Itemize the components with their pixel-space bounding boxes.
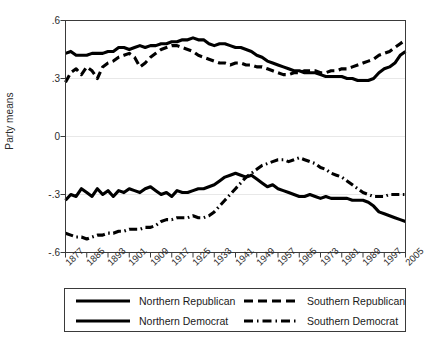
legend-row: Northern Republican Southern Republican: [65, 291, 405, 311]
x-tick-label: 1973: [318, 245, 341, 268]
legend-label: Southern Democrat: [307, 315, 398, 327]
x-tick-label: 1965: [296, 245, 319, 268]
legend-row: Northern Democrat Southern Democrat: [65, 311, 405, 331]
x-tick-label: 1981: [339, 245, 362, 268]
x-tick-label: 2005: [403, 245, 425, 268]
legend-label: Northern Republican: [139, 295, 235, 307]
x-tick-label: 1893: [105, 245, 128, 268]
legend-entry-northern-republican: Northern Republican: [75, 291, 235, 311]
legend-entry-southern-republican: Southern Republican: [243, 291, 405, 311]
x-tick-label: 1909: [148, 245, 171, 268]
legend-sample-dashdot-icon: [243, 315, 299, 327]
x-tick-label: 1901: [126, 245, 149, 268]
legend-entry-southern-democrat: Southern Democrat: [243, 311, 398, 331]
x-tick-label: 1877: [63, 245, 86, 268]
chart-legend: Northern Republican Southern Republican …: [64, 288, 406, 332]
x-tick-label: 1941: [233, 245, 256, 268]
x-tick-label: 1989: [360, 245, 383, 268]
x-tick-label: 1885: [84, 245, 107, 268]
x-tick-label: 1949: [254, 245, 277, 268]
x-tick-label: 1997: [381, 245, 404, 268]
legend-label: Southern Republican: [307, 295, 405, 307]
legend-sample-dashed-icon: [243, 295, 299, 307]
legend-label: Northern Democrat: [139, 315, 228, 327]
legend-sample-solid-icon: [75, 295, 131, 307]
legend-entry-northern-democrat: Northern Democrat: [75, 311, 228, 331]
x-tick-label: 1925: [190, 245, 213, 268]
x-tick-label: 1933: [211, 245, 234, 268]
x-tick-label: 1957: [275, 245, 298, 268]
legend-sample-solid-icon: [75, 315, 131, 327]
x-tick-label: 1917: [169, 245, 192, 268]
